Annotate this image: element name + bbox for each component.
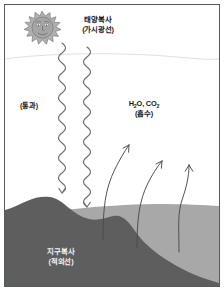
formula-h2o-subscript: 2 <box>134 103 137 109</box>
label-earth-radiation: 지구복사 (적외선) <box>19 247 103 267</box>
label-earth-radiation-line1: 지구복사 <box>47 247 74 256</box>
formula-co2-subscript: 2 <box>157 103 160 109</box>
label-solar-radiation: 태양복사 (가시광선) <box>61 15 135 35</box>
label-solar-radiation-line1: 태양복사 <box>84 15 111 24</box>
label-greenhouse-gases: H2O, CO2 (흡수) <box>101 99 187 119</box>
label-transmission: (통과) <box>7 101 51 111</box>
label-earth-radiation-line2: (적외선) <box>19 257 103 267</box>
greenhouse-effect-figure: 태양복사 (가시광선) (통과) H2O, CO2 (흡수) 지구복사 (적외선… <box>0 0 224 291</box>
formula-co2-head: O, CO <box>137 99 157 108</box>
label-solar-radiation-line2: (가시광선) <box>61 25 135 35</box>
label-transmission-line1: (통과) <box>20 101 38 110</box>
label-greenhouse-gases-formula: H2O, CO2 <box>129 99 160 108</box>
label-greenhouse-gases-line2: (흡수) <box>101 109 187 119</box>
diagram-canvas <box>5 5 219 286</box>
figure-frame: 태양복사 (가시광선) (통과) H2O, CO2 (흡수) 지구복사 (적외선… <box>4 4 220 287</box>
formula-h2o-head: H <box>129 99 134 108</box>
